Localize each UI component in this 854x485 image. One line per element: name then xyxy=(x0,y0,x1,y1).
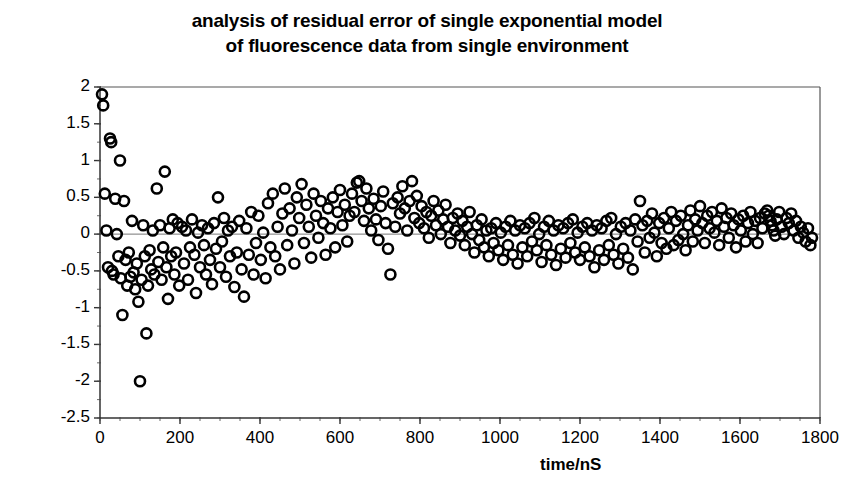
y-tick-label: 1.5 xyxy=(34,113,90,133)
plot-frame xyxy=(100,87,820,418)
scatter-plot-canvas xyxy=(0,0,854,485)
x-tick-label: 1400 xyxy=(630,428,690,448)
x-tick-label: 1800 xyxy=(790,428,850,448)
y-tick-label: -1.5 xyxy=(34,333,90,353)
y-tick-label: -2.5 xyxy=(34,407,90,427)
x-tick-label: 600 xyxy=(310,428,370,448)
y-tick-label: 0 xyxy=(34,223,90,243)
y-tick-label: -2 xyxy=(34,370,90,390)
y-tick-label: 1 xyxy=(34,150,90,170)
y-tick-label: 0.5 xyxy=(34,186,90,206)
y-tick-label: -1 xyxy=(34,297,90,317)
x-tick-label: 1600 xyxy=(710,428,770,448)
y-tick-label: -0.5 xyxy=(34,260,90,280)
data-points xyxy=(97,89,817,386)
x-tick-label: 1200 xyxy=(550,428,610,448)
chart-figure: analysis of residual error of single exp… xyxy=(0,0,854,485)
x-tick-label: 0 xyxy=(70,428,130,448)
axis-ticks xyxy=(94,87,820,424)
x-tick-label: 400 xyxy=(230,428,290,448)
x-tick-label: 200 xyxy=(150,428,210,448)
y-tick-label: 2 xyxy=(34,76,90,96)
x-tick-label: 800 xyxy=(390,428,450,448)
x-tick-label: 1000 xyxy=(470,428,530,448)
